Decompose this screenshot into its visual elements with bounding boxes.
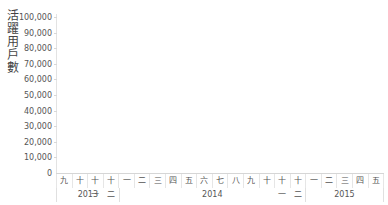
plot-area	[56, 16, 384, 173]
x-tick-month: 三	[149, 174, 165, 188]
y-tick-label: 100,000	[19, 13, 52, 22]
y-tick-label: 90,000	[24, 28, 52, 37]
y-tick-label: 20,000	[24, 137, 52, 146]
x-tick-year: 2014	[119, 188, 305, 202]
y-tick-label: 0	[47, 169, 52, 178]
y-tick-label: 10,000	[24, 153, 52, 162]
x-tick-month: 八	[227, 174, 243, 188]
x-tick-month: 十	[259, 174, 275, 188]
x-tick-month: 七	[212, 174, 228, 188]
y-tick-label: 50,000	[24, 91, 52, 100]
x-tick-month: 九	[56, 174, 72, 188]
x-axis-years: 2013 2014 2015	[56, 188, 384, 202]
x-tick-month: 十二	[290, 174, 306, 188]
x-tick-month: 十	[72, 174, 88, 188]
y-tick-label: 40,000	[24, 106, 52, 115]
x-tick-month: 三	[336, 174, 352, 188]
x-tick-month: 十一	[87, 174, 103, 188]
x-tick-month: 一	[118, 174, 134, 188]
y-tick-label: 70,000	[24, 59, 52, 68]
y-axis-title: 活 躍 用 戶 數	[6, 10, 20, 75]
x-tick-year: 2015	[305, 188, 384, 202]
y-tick-label: 80,000	[24, 44, 52, 53]
x-tick-month: 九	[243, 174, 259, 188]
x-tick-year: 2013	[56, 188, 119, 202]
x-tick-month: 一	[305, 174, 321, 188]
x-tick-month: 二	[134, 174, 150, 188]
x-axis: 九 十 十一 十二 一 二 三 四 五 六 七 八 九 十 十一 十二 一 二 …	[56, 174, 384, 202]
x-tick-month: 十一	[274, 174, 290, 188]
x-tick-month: 六	[196, 174, 212, 188]
x-tick-month: 五	[181, 174, 197, 188]
x-axis-months: 九 十 十一 十二 一 二 三 四 五 六 七 八 九 十 十一 十二 一 二 …	[56, 174, 384, 188]
y-tick-label: 30,000	[24, 122, 52, 131]
x-tick-month: 十二	[103, 174, 119, 188]
x-tick-month: 四	[352, 174, 368, 188]
y-axis-title-char: 數	[6, 62, 20, 75]
y-tick-label: 60,000	[24, 75, 52, 84]
y-axis-ticks: 100,000 90,000 80,000 70,000 60,000 50,0…	[20, 0, 52, 180]
x-tick-month: 四	[165, 174, 181, 188]
x-tick-month: 五	[368, 174, 385, 188]
x-tick-month: 二	[321, 174, 337, 188]
